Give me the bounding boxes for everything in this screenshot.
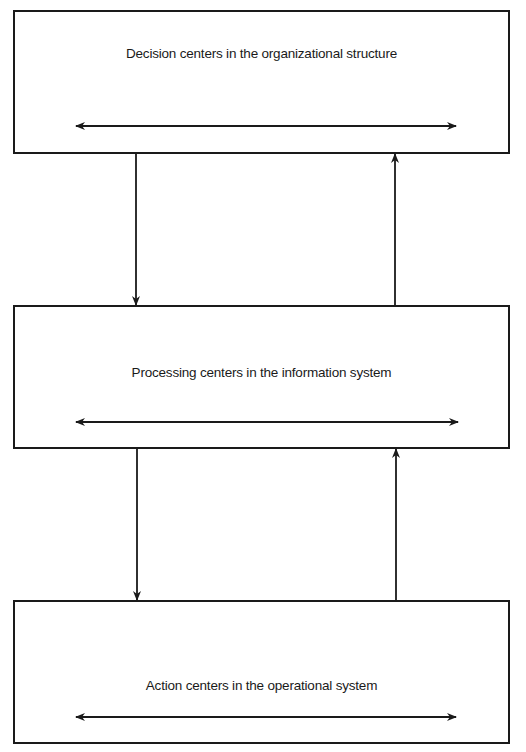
- connector-layer: [0, 0, 526, 752]
